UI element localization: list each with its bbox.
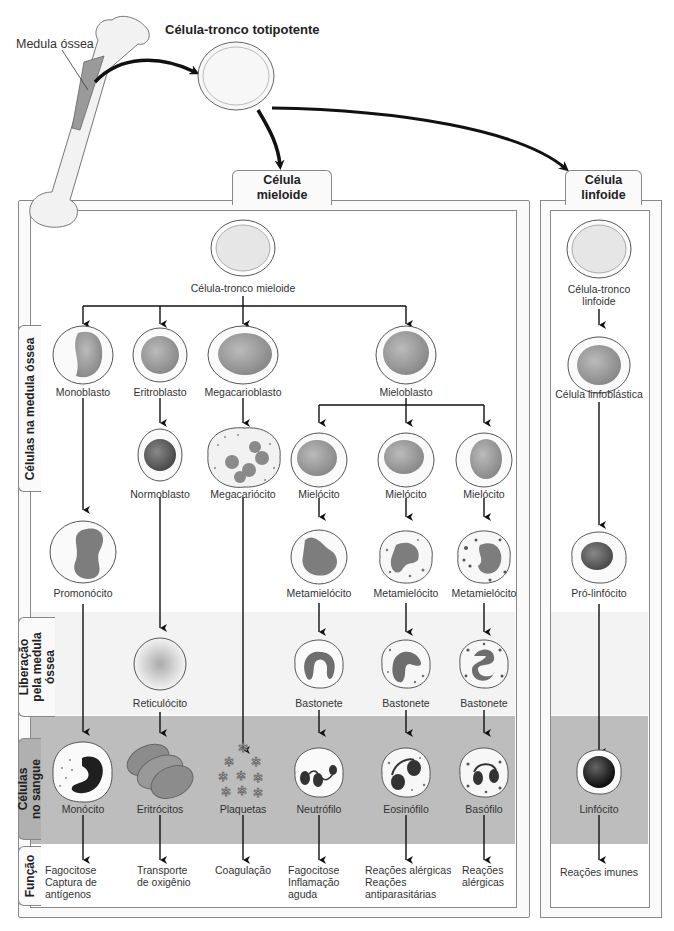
label-reticulocito: Reticulócito: [133, 697, 187, 709]
prolymphocyte-cell: [572, 532, 626, 583]
label-basofilo: Basófilo: [465, 803, 502, 815]
label-mielocito-2: Mielócito: [385, 488, 426, 500]
label-metamielocito-2: Metamielócito: [374, 587, 439, 599]
function-neutrofilo: FagocitoseInflamaçãoaguda: [288, 864, 339, 900]
metamyelocyte-neutro-cell: [291, 530, 347, 584]
svg-text:✲: ✲: [253, 786, 263, 800]
metamyelocyte-baso-cell: [458, 531, 510, 583]
label-metamielocito-3: Metamielócito: [452, 587, 517, 599]
svg-text:✲: ✲: [237, 784, 247, 798]
label-megacariocito: Megacariócito: [210, 488, 275, 500]
label-promonocito: Promonócito: [54, 587, 113, 599]
lymphoid-stem-cell: [567, 220, 631, 278]
label-bastonete-2: Bastonete: [382, 697, 429, 709]
label-lymphoblast: Célula linfoblástica: [555, 388, 643, 400]
bone-marrow-label: Medula óssea: [16, 38, 94, 50]
function-eritrocitos: Transportede oxigênio: [137, 864, 191, 888]
label-bastonete-1: Bastonete: [295, 697, 342, 709]
basophil-cell: [460, 748, 508, 797]
label-eosinofilo: Eosinófilo: [383, 803, 429, 815]
normoblast-cell: [138, 429, 182, 481]
label-mielocito-1: Mielócito: [298, 488, 339, 500]
label-monocito: Monócito: [62, 803, 105, 815]
svg-text:✲: ✲: [218, 770, 228, 784]
myelocyte-eosino-cell: [378, 433, 434, 487]
lymphoblast-cell: [568, 337, 630, 393]
neutrophil-cell: [295, 748, 343, 797]
function-basofilo: Reaçõesalérgicas: [462, 864, 504, 888]
label-monoblast: Monoblasto: [56, 386, 110, 398]
myeloblast-cell: [376, 326, 436, 384]
label-plaquetas: Plaquetas: [220, 803, 267, 815]
label-lymphoid-stem: Célula-troncolinfoide: [568, 283, 630, 307]
reticulocyte-cell: [134, 638, 186, 690]
label-eritrocitos: Eritrócitos: [137, 803, 184, 815]
totipotent-stem-cell-title: Célula-tronco totipotente: [165, 22, 320, 37]
function-monocito: FagocitoseCaptura deantígenos: [45, 864, 97, 900]
monocyte-cell: [53, 742, 112, 802]
svg-text:✲: ✲: [221, 785, 231, 799]
eosinophil-cell: [382, 748, 430, 797]
label-mieloblast: Mieloblasto: [379, 386, 432, 398]
label-lymphocyte: Linfócito: [579, 803, 618, 815]
svg-text:✲: ✲: [224, 755, 234, 769]
label-bastonete-3: Bastonete: [460, 697, 507, 709]
lymphocyte-cell: [577, 750, 621, 794]
diagram-graphics: ✲ ✲✲ ✲✲✲ ✲✲✲: [0, 0, 674, 931]
band-neutro-cell: [295, 640, 343, 688]
svg-text:✲: ✲: [236, 769, 246, 783]
monoblast-cell: [53, 326, 113, 384]
myelocyte-baso-cell: [456, 433, 512, 487]
label-megacarioblast: Megacarioblasto: [204, 386, 281, 398]
promonocyte-cell: [50, 521, 116, 583]
label-mielocito-3: Mielócito: [463, 488, 504, 500]
platelets-icon: ✲ ✲✲ ✲✲✲ ✲✲✲: [218, 741, 263, 800]
label-normoblast: Normoblasto: [130, 488, 190, 500]
svg-text:✲: ✲: [253, 771, 263, 785]
eritroblast-cell: [133, 328, 187, 382]
function-lymphocyte: Reações imunes: [560, 866, 638, 878]
myelocyte-neutro-cell: [291, 433, 347, 487]
svg-text:✲: ✲: [238, 741, 248, 755]
metamyelocyte-eosino-cell: [380, 531, 432, 583]
label-prolymphocyte: Pró-linfócito: [571, 587, 626, 599]
function-plaquetas: Coagulação: [215, 864, 271, 876]
megakaryoblast-cell: [208, 326, 278, 384]
band-eosino-cell: [382, 640, 430, 688]
label-neutrofilo: Neutrófilo: [297, 803, 342, 815]
myeloid-stem-label: Célula-tronco mieloide: [191, 282, 295, 294]
band-baso-cell: [460, 640, 508, 688]
label-eritroblast: Eritroblasto: [133, 386, 186, 398]
erythrocytes-icon: [122, 738, 198, 805]
megakaryocyte-cell: [208, 428, 280, 488]
function-eosinofilo: Reações alérgicasReaçõesantiparasitárias: [365, 864, 451, 900]
label-metamielocito-1: Metamielócito: [287, 587, 352, 599]
svg-text:✲: ✲: [251, 755, 261, 769]
